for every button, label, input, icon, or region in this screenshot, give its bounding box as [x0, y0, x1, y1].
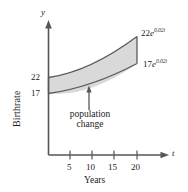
population-change-annotation: population change — [54, 110, 126, 130]
lower-curve-label: 17e0.02t — [143, 59, 167, 69]
birthrate-population-change-chart: y t Birthrate 22 17 5 10 15 20 Years 22e… — [0, 0, 188, 192]
x-axis-variable-label: t — [172, 149, 175, 158]
y-tick-label-22: 22 — [31, 73, 40, 82]
y-axis-title: Birthrate — [12, 91, 22, 127]
upper-curve-label: 22e0.02t — [141, 28, 165, 38]
annotation-line-2: change — [54, 120, 126, 130]
x-axis-title: Years — [84, 176, 105, 186]
lower-curve-exponent: 0.02t — [156, 58, 167, 64]
upper-curve-coefficient: 22 — [141, 28, 150, 38]
y-axis-arrowhead — [45, 20, 52, 29]
lower-curve-coefficient: 17 — [143, 59, 152, 69]
x-tick-label-10: 10 — [86, 163, 95, 172]
x-tick-label-20: 20 — [131, 163, 140, 172]
y-tick-label-17: 17 — [31, 89, 40, 98]
x-axis-arrowhead — [161, 152, 170, 158]
upper-curve-exponent: 0.02t — [154, 27, 165, 33]
y-axis-variable-label: y — [41, 8, 45, 17]
x-tick-label-15: 15 — [108, 163, 117, 172]
x-tick-label-5: 5 — [67, 163, 72, 172]
